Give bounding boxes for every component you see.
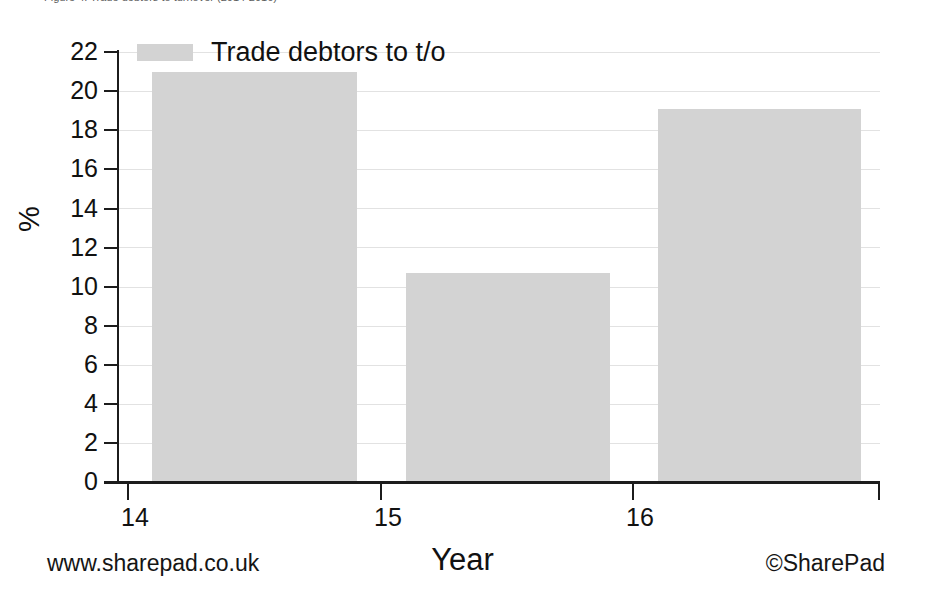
y-tick-mark-20 [104, 90, 118, 92]
x-axis-line [104, 481, 880, 484]
y-tick-mark-8 [104, 325, 118, 327]
y-axis-title: % [14, 206, 44, 232]
bar-16[interactable] [658, 109, 861, 482]
y-tick-label-18: 18 [40, 117, 98, 142]
y-tick-label-6: 6 [40, 352, 98, 377]
y-tick-label-2: 2 [40, 430, 98, 455]
y-tick-label-10: 10 [40, 274, 98, 299]
y-tick-mark-18 [104, 129, 118, 131]
y-tick-label-22: 22 [40, 39, 98, 64]
y-tick-label-4: 4 [40, 391, 98, 416]
y-tick-mark-6 [104, 364, 118, 366]
y-tick-mark-22 [104, 51, 118, 53]
x-tick-label-14: 14 [121, 503, 149, 531]
x-tick-mark-end [878, 484, 880, 500]
bar-15[interactable] [406, 273, 610, 482]
figure-caption-text: Figure 4: Trade debtors to turnover (201… [0, 0, 925, 4]
x-tick-label-16: 16 [626, 503, 654, 531]
x-tick-mark-15 [380, 484, 382, 500]
x-tick-mark-16 [632, 484, 634, 500]
plot-area [118, 52, 880, 482]
y-tick-mark-16 [104, 168, 118, 170]
footer-copyright: ©SharePad [766, 549, 885, 577]
y-tick-label-14: 14 [40, 196, 98, 221]
y-tick-label-16: 16 [40, 156, 98, 181]
x-tick-label-15: 15 [374, 503, 402, 531]
y-tick-label-20: 20 [40, 78, 98, 103]
legend-label-trade-debtors: Trade debtors to t/o [211, 38, 446, 67]
y-tick-label-12: 12 [40, 235, 98, 260]
y-tick-mark-14 [104, 208, 118, 210]
figure-caption: Figure 4: Trade debtors to turnover (201… [0, 0, 925, 5]
y-tick-mark-0 [104, 481, 118, 483]
bar-14[interactable] [152, 72, 357, 482]
y-tick-mark-10 [104, 286, 118, 288]
x-tick-mark-14 [127, 484, 129, 500]
y-tick-label-0: 0 [40, 469, 98, 494]
y-axis-line [117, 50, 119, 484]
y-tick-mark-2 [104, 442, 118, 444]
y-tick-mark-12 [104, 247, 118, 249]
legend-swatch-trade-debtors [137, 44, 193, 61]
y-tick-label-8: 8 [40, 313, 98, 338]
footer-website-url[interactable]: www.sharepad.co.uk [47, 549, 259, 577]
y-tick-mark-4 [104, 403, 118, 405]
chart-legend[interactable]: Trade debtors to t/o [137, 38, 446, 67]
y-axis-tick-labels: 22 20 18 16 14 12 10 8 6 4 2 0 [36, 0, 98, 600]
